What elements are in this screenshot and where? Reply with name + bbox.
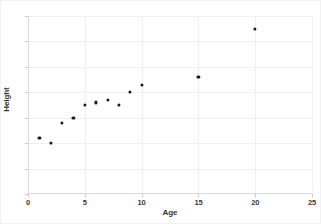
- x-axis-line: [28, 193, 312, 194]
- gridline-horizontal: [28, 92, 312, 93]
- x-tick-label: 10: [138, 198, 146, 207]
- y-tick-mark: [25, 67, 28, 68]
- x-tick-mark: [312, 194, 313, 197]
- gridline-horizontal: [28, 41, 312, 42]
- y-tick-mark: [25, 41, 28, 42]
- gridline-horizontal: [28, 67, 312, 68]
- x-tick-label: 15: [194, 198, 202, 207]
- plot-background: [28, 16, 312, 194]
- gridline-vertical: [198, 16, 199, 194]
- gridline-vertical: [255, 16, 256, 194]
- y-tick-mark: [25, 92, 28, 93]
- gridline-horizontal: [28, 16, 312, 17]
- x-tick-mark: [28, 194, 29, 197]
- y-tick-mark: [25, 16, 28, 17]
- gridline-vertical: [312, 16, 313, 194]
- gridline-horizontal: [28, 169, 312, 170]
- x-tick-label: 5: [83, 198, 87, 207]
- x-tick-label: 0: [26, 198, 30, 207]
- gridline-horizontal: [28, 143, 312, 144]
- x-axis-title: Age: [28, 208, 312, 217]
- scatter-chart: 010203040506070 0510152025 Age Height: [0, 0, 321, 224]
- gridline-horizontal: [28, 118, 312, 119]
- x-tick-mark: [198, 194, 199, 197]
- gridline-vertical: [142, 16, 143, 194]
- y-tick-mark: [25, 169, 28, 170]
- x-tick-label: 25: [308, 198, 316, 207]
- x-tick-mark: [85, 194, 86, 197]
- x-tick-mark: [255, 194, 256, 197]
- y-tick-mark: [25, 118, 28, 119]
- y-axis-line: [28, 16, 29, 194]
- y-tick-mark: [25, 143, 28, 144]
- plot-area: 010203040506070 0510152025: [28, 16, 312, 194]
- x-tick-label: 20: [251, 198, 259, 207]
- x-tick-mark: [142, 194, 143, 197]
- y-axis-title: Height: [2, 75, 11, 125]
